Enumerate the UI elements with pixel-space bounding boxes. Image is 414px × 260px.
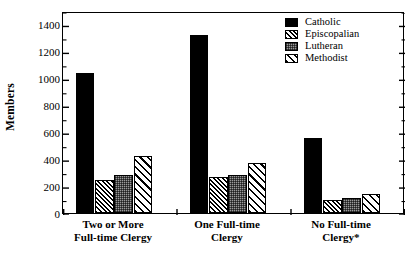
x-category-line: No Full-time: [276, 218, 406, 231]
y-axis-tick-label: 1200: [22, 47, 60, 58]
chart-legend: CatholicEpiscopalianLutheranMethodist: [285, 17, 359, 65]
legend-label: Lutheran: [305, 41, 343, 52]
y-axis-title-container: Members: [0, 0, 20, 214]
dense-hatch-swatch: [285, 30, 298, 39]
x-category-line: Clergy: [162, 231, 292, 244]
bar-chart-figure: Members 0200400600800100012001400 Cathol…: [0, 0, 414, 260]
legend-item-lutheran: Lutheran: [285, 41, 359, 52]
x-axis-category-label-2: One Full-timeClergy: [162, 218, 292, 244]
x-category-line: Clergy*: [276, 231, 406, 244]
y-axis-tick-label: 1400: [22, 20, 60, 31]
legend-item-methodist: Methodist: [285, 53, 359, 64]
gray-stipple-swatch: [285, 42, 298, 51]
y-axis-tick-label: 800: [22, 101, 60, 112]
legend-label: Episcopalian: [305, 29, 359, 40]
y-axis-tick-label: 1000: [22, 74, 60, 85]
x-category-line: One Full-time: [162, 218, 292, 231]
y-axis-tick-label: 200: [22, 182, 60, 193]
x-category-line: Two or More: [48, 218, 178, 231]
legend-label: Catholic: [305, 17, 341, 28]
y-axis-tick-label: 600: [22, 128, 60, 139]
x-axis-category-label-1: Two or MoreFull-time Clergy: [48, 218, 178, 244]
legend-label: Methodist: [305, 53, 348, 64]
wide-hatch-swatch: [285, 54, 298, 63]
x-axis-category-label-3: No Full-timeClergy*: [276, 218, 406, 244]
solid-black-swatch: [285, 18, 298, 27]
plot-area: CatholicEpiscopalianLutheranMethodist: [62, 12, 404, 214]
legend-item-catholic: Catholic: [285, 17, 359, 28]
y-axis-tick-label: 400: [22, 155, 60, 166]
y-axis-title: Members: [4, 83, 16, 131]
legend-item-episcopalian: Episcopalian: [285, 29, 359, 40]
x-category-line: Full-time Clergy: [48, 231, 178, 244]
